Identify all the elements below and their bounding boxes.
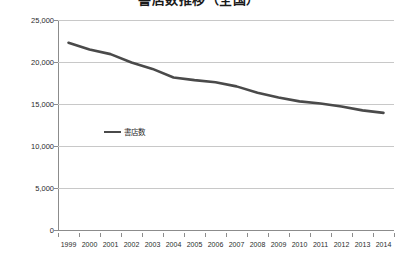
x-axis-tick xyxy=(100,233,101,237)
x-axis-tick xyxy=(142,233,143,237)
x-axis-tick xyxy=(226,233,227,237)
y-axis-tick-label: 5,000 xyxy=(2,184,54,193)
x-axis-tick xyxy=(205,233,206,237)
x-axis-tick-label: 2005 xyxy=(187,241,203,248)
x-axis-tick xyxy=(184,233,185,237)
x-axis-tick-label: 2007 xyxy=(229,241,245,248)
x-axis-labels: 1999200020012002200320042005200620072008… xyxy=(58,233,394,253)
y-axis-tick-label: 20,000 xyxy=(2,58,54,67)
x-axis-tick-label: 2001 xyxy=(103,241,119,248)
x-axis-tick xyxy=(289,233,290,237)
y-axis-tick-label: 10,000 xyxy=(2,142,54,151)
x-axis-tick-label: 2014 xyxy=(376,241,392,248)
y-axis-labels: 05,00010,00015,00020,00025,000 xyxy=(0,0,54,267)
x-axis-tick xyxy=(163,233,164,237)
x-axis-tick-label: 2003 xyxy=(145,241,161,248)
x-axis-tick-label: 2008 xyxy=(250,241,266,248)
x-axis-tick-label: 2009 xyxy=(271,241,287,248)
x-axis-tick-label: 2000 xyxy=(82,241,98,248)
x-axis-tick xyxy=(79,233,80,237)
chart-container: 書店数推移（全国） 05,00010,00015,00020,00025,000… xyxy=(0,0,398,267)
x-axis-tick-label: 1999 xyxy=(61,241,77,248)
x-axis-tick xyxy=(394,233,395,237)
x-axis-tick-label: 2004 xyxy=(166,241,182,248)
y-axis-tick-label: 25,000 xyxy=(2,16,54,25)
x-axis-tick xyxy=(247,233,248,237)
x-axis-tick xyxy=(121,233,122,237)
legend-swatch-icon xyxy=(104,131,121,133)
x-axis-tick-label: 2002 xyxy=(124,241,140,248)
x-axis-tick-label: 2011 xyxy=(313,241,328,248)
x-axis-tick xyxy=(352,233,353,237)
x-axis-tick xyxy=(373,233,374,237)
x-axis-tick-label: 2012 xyxy=(334,241,350,248)
x-axis-tick xyxy=(58,233,59,237)
series-polyline xyxy=(69,43,384,113)
y-axis-tick-label: 0 xyxy=(2,226,54,235)
x-axis-tick xyxy=(331,233,332,237)
x-axis-tick xyxy=(310,233,311,237)
legend-label: 書店数 xyxy=(124,126,145,137)
x-axis-tick-label: 2013 xyxy=(355,241,371,248)
x-axis-tick-label: 2006 xyxy=(208,241,224,248)
chart-title: 書店数推移（全国） xyxy=(0,0,398,8)
x-axis-tick-label: 2010 xyxy=(292,241,308,248)
chart-legend: 書店数 xyxy=(104,126,145,137)
x-axis-tick xyxy=(268,233,269,237)
y-axis-tick-label: 15,000 xyxy=(2,100,54,109)
